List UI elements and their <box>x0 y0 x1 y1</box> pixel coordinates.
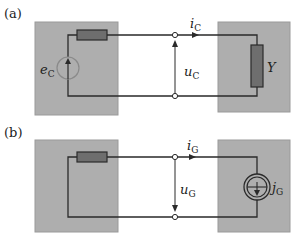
panel-a: (a) eC iC uC <box>4 6 290 115</box>
admittance-icon <box>251 45 263 87</box>
terminal-top-a <box>172 32 177 37</box>
resistor-icon <box>77 152 107 162</box>
voltage-arrow-head-icon <box>172 40 178 47</box>
voltage-label-b: uG <box>180 182 196 199</box>
circuit-diagram: (a) eC iC uC <box>0 0 300 240</box>
panel-b: (b) iG uG jG <box>4 125 290 232</box>
panel-b-label: (b) <box>4 125 22 140</box>
current-label-a: iC <box>190 16 201 33</box>
voltage-arrow-head-icon <box>172 205 178 212</box>
current-source-icon <box>244 174 270 200</box>
load-label-a: Y <box>267 60 277 75</box>
current-label-b: iG <box>187 138 198 155</box>
terminal-top-b <box>172 154 177 159</box>
terminal-bottom-a <box>172 93 177 98</box>
panel-a-label: (a) <box>4 6 22 21</box>
terminal-bottom-b <box>172 214 177 219</box>
voltage-source-icon <box>57 57 79 79</box>
voltage-label-a: uC <box>184 64 199 81</box>
resistor-icon <box>77 30 107 40</box>
